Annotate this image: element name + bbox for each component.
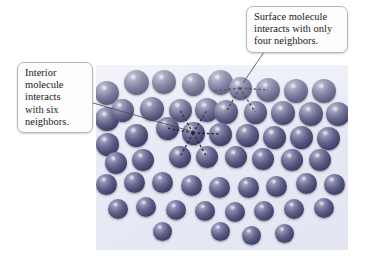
molecule [309, 149, 331, 171]
molecule [152, 70, 176, 94]
molecule [252, 148, 274, 170]
molecule [296, 173, 317, 194]
molecule [275, 224, 294, 243]
molecule [266, 176, 287, 197]
molecule [324, 174, 345, 195]
molecule [299, 102, 323, 126]
molecule [238, 177, 259, 198]
molecule [132, 149, 154, 171]
molecule [140, 97, 164, 121]
molecule [152, 172, 173, 193]
molecule [182, 73, 205, 96]
molecule [111, 99, 134, 122]
molecule [284, 79, 308, 103]
callout-interior-line-5: neighbors. [25, 116, 86, 128]
interior-molecule-callout: Interior molecule interacts with six nei… [17, 62, 93, 133]
molecule [236, 124, 259, 147]
molecule [153, 222, 172, 241]
molecule [271, 101, 295, 125]
molecule [214, 100, 238, 124]
callout-surface-line-3: four neighbors. [254, 35, 341, 47]
molecule [225, 202, 245, 222]
callout-interior-line-2: molecule [25, 79, 86, 91]
callout-interior-line-3: interacts [25, 91, 86, 103]
molecule [281, 149, 303, 171]
callout-interior-line-4: with six [25, 104, 86, 116]
molecule [312, 79, 336, 103]
molecule [124, 70, 149, 95]
molecule [124, 172, 145, 193]
molecule [263, 126, 286, 149]
molecule [156, 117, 179, 140]
figure-canvas: Surface molecule interacts with only fou… [0, 0, 368, 263]
molecule [181, 175, 202, 196]
molecule [326, 102, 348, 126]
molecule [195, 201, 215, 221]
molecule [317, 127, 340, 150]
molecule [256, 78, 280, 102]
molecule [96, 174, 117, 195]
molecule [169, 146, 191, 168]
molecule [125, 124, 148, 147]
callout-surface-line-2: interacts with only [254, 23, 341, 35]
molecule [225, 146, 247, 168]
molecule [209, 177, 230, 198]
molecule [254, 201, 274, 221]
molecule [166, 200, 186, 220]
molecule [108, 199, 128, 219]
molecule [290, 126, 313, 149]
callout-interior-line-1: Interior [25, 67, 86, 79]
molecule [196, 146, 218, 168]
molecule [314, 198, 334, 218]
molecule-panel [96, 65, 348, 250]
callout-surface-line-1: Surface molecule [254, 11, 341, 23]
molecule [211, 222, 230, 241]
interior-molecule [182, 122, 205, 145]
surface-molecule-callout: Surface molecule interacts with only fou… [246, 6, 348, 53]
molecule [242, 226, 261, 245]
molecule [136, 197, 156, 217]
molecule [244, 101, 267, 124]
surface-molecule [229, 77, 252, 100]
molecule [209, 123, 232, 146]
molecule [105, 152, 127, 174]
molecule [284, 199, 304, 219]
